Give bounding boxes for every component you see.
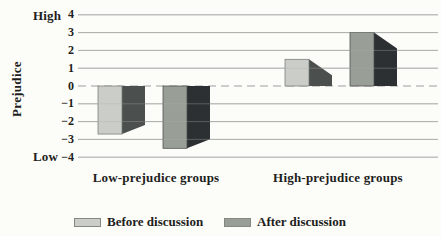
legend-item-after: After discussion bbox=[224, 214, 346, 230]
y-tick-label: 1 bbox=[40, 61, 74, 76]
legend-label-before: Before discussion bbox=[107, 214, 203, 230]
bar-before-high bbox=[285, 59, 309, 86]
y-tick-label: −1 bbox=[40, 96, 74, 111]
category-label-high-prejudice: High-prejudice groups bbox=[273, 170, 403, 186]
y-tick-label: 3 bbox=[40, 25, 74, 40]
bar-side-before bbox=[309, 59, 332, 86]
bar-side-after bbox=[374, 33, 397, 86]
prejudice-polarization-chart: High Low Prejudice 43210−1−2−3−4 Low-pre… bbox=[0, 0, 441, 236]
bar-before-low bbox=[98, 86, 122, 134]
y-tick-label: 4 bbox=[40, 7, 74, 22]
bar-side-before bbox=[122, 86, 145, 134]
after-discussion-swatch bbox=[224, 218, 251, 227]
legend-item-before: Before discussion bbox=[74, 214, 203, 230]
y-tick-label: −4 bbox=[40, 150, 74, 165]
y-tick-label: −3 bbox=[40, 132, 74, 147]
category-label-low-prejudice: Low-prejudice groups bbox=[93, 170, 220, 186]
bar-after-high bbox=[350, 33, 374, 86]
y-axis-title: Prejudice bbox=[9, 61, 25, 117]
before-discussion-swatch bbox=[74, 218, 101, 227]
legend-label-after: After discussion bbox=[257, 214, 346, 230]
y-tick-label: −2 bbox=[40, 114, 74, 129]
y-tick-label: 2 bbox=[40, 43, 74, 58]
y-tick-label: 0 bbox=[40, 79, 74, 94]
